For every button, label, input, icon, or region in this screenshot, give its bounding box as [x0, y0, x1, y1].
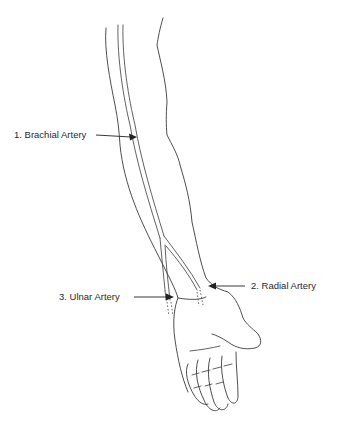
arm-artery-diagram: 1. Brachial Artery 2. Radial Artery 3. U… — [0, 0, 340, 431]
arrow-radial — [208, 283, 245, 290]
arrow-brachial — [96, 134, 137, 141]
label-brachial-artery: 1. Brachial Artery — [14, 130, 86, 140]
arrows-layer — [0, 0, 340, 431]
arrow-ulnar — [134, 294, 174, 301]
label-ulnar-artery: 3. Ulnar Artery — [59, 292, 120, 302]
label-radial-artery: 2. Radial Artery — [251, 281, 316, 291]
